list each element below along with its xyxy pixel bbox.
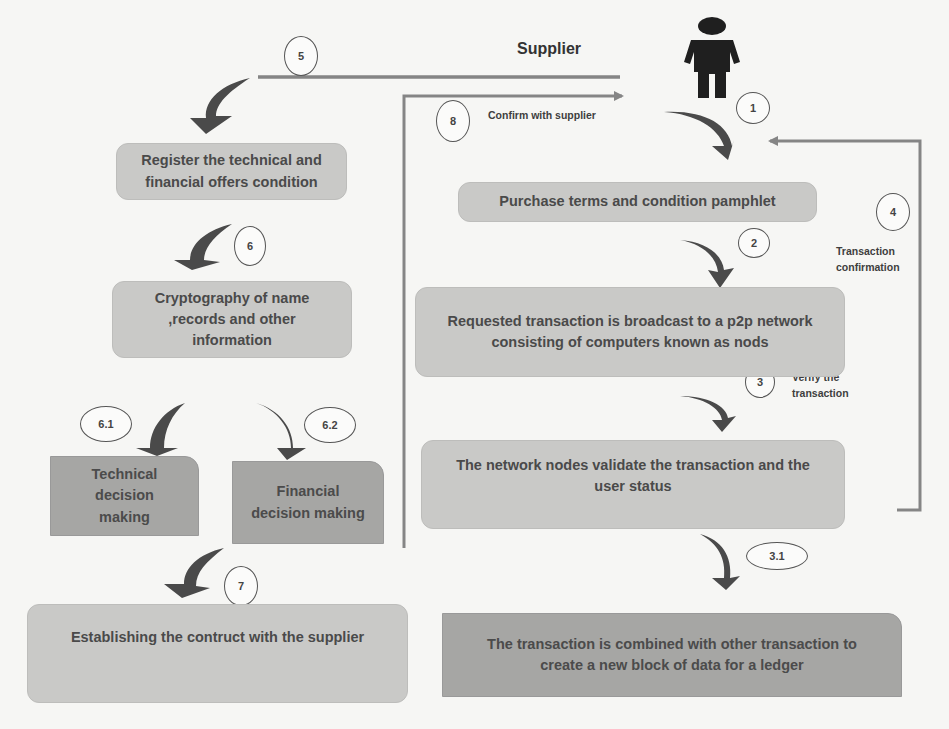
confirm-with-supplier-note: Confirm with supplier [488, 108, 596, 124]
curved-arrow-3 [680, 396, 736, 432]
register-offers-box: Register the technical and financial off… [116, 143, 347, 200]
curved-arrow-1 [664, 112, 734, 160]
curved-arrow-3-1 [700, 534, 740, 590]
curved-arrow-5 [190, 78, 250, 134]
curved-arrow-6 [174, 224, 232, 270]
step-7-badge: 7 [224, 566, 258, 606]
establishing-contract-box: Establishing the contruct with the suppl… [27, 604, 408, 703]
transaction-confirmation-note: Transaction confirmation [836, 244, 900, 276]
step-6-1-badge: 6.1 [80, 406, 132, 442]
cryptography-box: Cryptography of name ,records and other … [112, 281, 352, 358]
curved-arrow-6-2 [256, 403, 306, 460]
validate-transaction-box: The network nodes validate the transacti… [421, 440, 845, 529]
step-6-badge: 6 [234, 226, 266, 266]
step-6-2-badge: 6.2 [304, 407, 356, 443]
step-1-badge: 1 [736, 92, 770, 124]
person-icon [684, 17, 740, 98]
curved-arrow-6-1 [136, 403, 185, 456]
step-4-badge: 4 [876, 193, 910, 231]
step-5-badge: 5 [284, 36, 318, 76]
supplier-label: Supplier [517, 40, 581, 58]
curved-arrow-7 [164, 548, 224, 598]
step-8-badge: 8 [436, 100, 470, 142]
purchase-pamphlet-box: Purchase terms and condition pamphlet [458, 182, 817, 222]
step-3-1-badge: 3.1 [746, 542, 808, 570]
broadcast-transaction-box: Requested transaction is broadcast to a … [415, 287, 845, 377]
curved-arrow-2 [680, 240, 734, 288]
step-2-badge: 2 [738, 228, 770, 258]
ledger-block-box: The transaction is combined with other t… [442, 613, 902, 697]
financial-decision-box: Financial decision making [232, 461, 384, 544]
technical-decision-box: Technical decision making [50, 456, 199, 536]
